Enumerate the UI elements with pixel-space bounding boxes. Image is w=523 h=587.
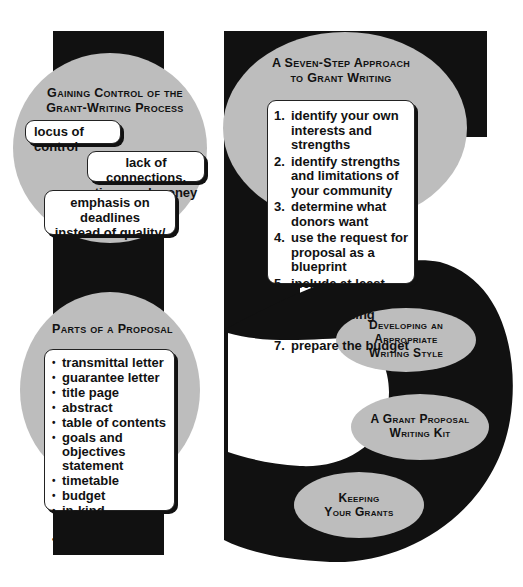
gaining-control-title-line1: Gaining Control of the [30, 86, 200, 101]
part-item: •transmittal letter [52, 356, 171, 370]
part-item: •guarantee letter [52, 371, 171, 385]
writing-style-label: Developing an Appropriate Writing Style [336, 318, 476, 360]
gaining-control-heading: Gaining Control of the Grant-Writing Pro… [30, 86, 200, 116]
lack-line1: lack of connections, [92, 155, 200, 185]
emphasis-line2: instead of quality/ [49, 225, 171, 240]
part-item: •timetable [52, 474, 171, 488]
parts-list: •transmittal letter •guarantee letter •t… [52, 356, 171, 547]
step-1: 1.identify your own interests and streng… [274, 109, 410, 153]
seven-step-box: 1.identify your own interests and streng… [267, 100, 415, 284]
step-3: 3.determine what donors want [274, 200, 410, 229]
seven-step-title-line2: to Grant Writing [262, 71, 420, 86]
writing-kit-label: A Grant Proposal Writing Kit [350, 412, 490, 440]
part-item: •evaluation [52, 533, 171, 547]
part-item: •abstract [52, 401, 171, 415]
keeping-grants-label: Keeping Your Grants [294, 491, 424, 519]
parts-of-proposal-box: •transmittal letter •guarantee letter •t… [44, 349, 175, 511]
parts-title: Parts of a Proposal [30, 322, 195, 337]
part-item: •title page [52, 386, 171, 400]
locus-of-control-text: locus of control [34, 124, 84, 154]
gaining-control-title-line2: Grant-Writing Process [30, 101, 200, 116]
seven-step-title-line1: A Seven-Step Approach [262, 56, 420, 71]
emphasis-on-deadlines-box: emphasis on deadlines instead of quality… [44, 190, 176, 235]
part-item: •goals and objectives statement [52, 431, 171, 473]
emphasis-line1: emphasis on deadlines [49, 195, 171, 225]
locus-of-control-box: locus of control [25, 120, 121, 144]
step-4: 4.use the request for proposal as a blue… [274, 231, 410, 275]
part-item: •table of contents [52, 416, 171, 430]
parts-of-proposal-heading: Parts of a Proposal [30, 322, 195, 337]
step-2: 2.identify strengths and limitations of … [274, 155, 410, 199]
step-5: 5.include at least one unique feature [274, 277, 410, 306]
seven-step-list: 1.identify your own interests and streng… [274, 109, 410, 353]
seven-step-heading: A Seven-Step Approach to Grant Writing [262, 56, 420, 86]
part-item: •in-kind contributions [52, 504, 171, 532]
lack-of-connections-box: lack of connections, time, and money [87, 151, 205, 182]
emphasis-line3: investigator strength [49, 240, 171, 270]
part-item: •budget [52, 489, 171, 503]
